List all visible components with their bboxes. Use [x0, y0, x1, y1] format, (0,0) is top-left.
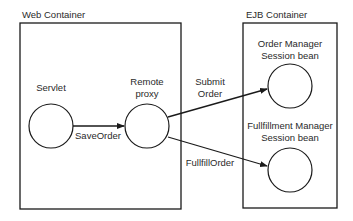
remote-proxy-node	[125, 104, 169, 148]
web-container-label: Web Container	[22, 9, 85, 21]
order-manager-label-line2: Session bean	[250, 50, 330, 62]
remote-proxy-label-line2: proxy	[122, 88, 172, 100]
remote-proxy-label-line1: Remote	[122, 76, 172, 88]
submitorder-label-line1: Submit	[190, 76, 230, 88]
fulfillment-manager-node	[268, 148, 312, 192]
fulfillorder-label: FullfillOrder	[185, 157, 235, 169]
web-container-box	[20, 23, 181, 209]
submitorder-label-line2: Order	[190, 88, 230, 100]
servlet-node	[29, 104, 73, 148]
order-manager-label-line1: Order Manager	[250, 38, 330, 50]
saveorder-label: SaveOrder	[72, 130, 124, 142]
servlet-label: Servlet	[26, 82, 76, 94]
diagram-canvas	[0, 0, 353, 221]
fulfillment-manager-label-line2: Session bean	[243, 132, 337, 144]
fulfillment-manager-label-line1: Fullfillment Manager	[243, 120, 337, 132]
order-manager-node	[268, 64, 312, 108]
ejb-container-label: EJB Container	[246, 9, 307, 21]
